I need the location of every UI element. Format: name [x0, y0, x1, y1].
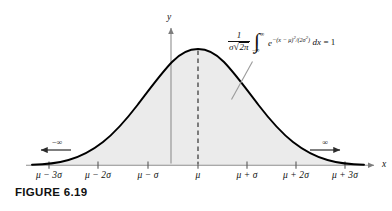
exponent-numerator: −(x − μ) — [272, 36, 293, 43]
tick-label-mu-minus-sigma: μ − σ — [137, 170, 158, 180]
exponent-divisor: /(2σ — [296, 36, 306, 43]
tick-label-mu-plus-3sigma: μ + 3σ — [332, 170, 358, 180]
integral-lower-limit: −∞ — [252, 47, 260, 53]
figure-container: y x −∞ ∞ μ − 3σ μ − 2σ μ − σ μ μ + σ μ +… — [0, 0, 392, 211]
pdf-integral-formula: 1 σ√2π ∫ ∞ −∞ e−(x − μ)2/(2σ2) dx = 1 — [228, 31, 335, 52]
exponent-close-paren: ) — [308, 36, 310, 43]
left-infinity-label: −∞ — [52, 138, 62, 147]
fraction-numerator: 1 — [235, 31, 244, 41]
tick-label-mu-plus-2sigma: μ + 2σ — [283, 170, 309, 180]
normalizing-fraction: 1 σ√2π — [228, 31, 250, 52]
fraction-denominator: σ√2π — [228, 42, 250, 53]
integral-group: ∫ ∞ −∞ — [252, 32, 267, 52]
tick-label-mu: μ — [196, 170, 201, 180]
y-axis-label: y — [167, 12, 171, 22]
integral-upper-limit: ∞ — [260, 31, 264, 37]
equals-one: = 1 — [323, 37, 335, 47]
tick-label-mu-plus-sigma: μ + σ — [236, 170, 257, 180]
x-axis-label: x — [382, 159, 386, 169]
right-infinity-label: ∞ — [322, 138, 328, 147]
integrand-expression: e−(x − μ)2/(2σ2) — [268, 35, 310, 48]
radicand: 2π — [239, 42, 249, 52]
square-root-group: √2π — [233, 42, 249, 52]
tick-label-mu-minus-2sigma: μ − 2σ — [85, 170, 111, 180]
differential-dx: dx — [312, 37, 321, 47]
tick-label-mu-minus-3sigma: μ − 3σ — [36, 170, 62, 180]
figure-caption: FIGURE 6.19 — [15, 186, 87, 198]
integrand-exponent: −(x − μ)2/(2σ2) — [272, 36, 310, 43]
